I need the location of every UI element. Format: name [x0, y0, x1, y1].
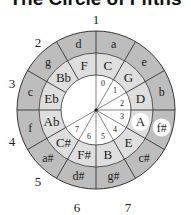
outer-number-label: 3 [9, 76, 16, 91]
minor-key-label: f [28, 121, 32, 135]
outer-number-label: 6 [74, 200, 81, 215]
major-key-label: G [124, 70, 133, 85]
major-key-label: B [104, 147, 113, 162]
outer-number-label: 4 [9, 134, 16, 149]
outer-number-label: 7 [125, 200, 132, 215]
accidental-count-label: 5 [101, 132, 105, 141]
outer-number-label: 2 [35, 35, 42, 50]
major-key-label: C [104, 58, 113, 73]
minor-key-label: b [159, 85, 165, 99]
minor-key-label: d# [72, 169, 84, 183]
outer-number-label: 5 [35, 174, 42, 189]
minor-key-label: g [45, 55, 51, 69]
major-key-label: A [136, 114, 146, 129]
major-key-label: C# [56, 135, 72, 150]
minor-key-label: e [141, 55, 146, 69]
major-key-label: F# [77, 147, 91, 162]
accidental-count-label: 1 [113, 86, 117, 95]
major-key-label: E [125, 135, 133, 150]
major-key-label: Ab [44, 114, 60, 129]
major-key-label: D [136, 91, 145, 106]
minor-key-label: a [111, 37, 117, 51]
accidental-count-label: 6 [87, 132, 91, 141]
accidental-count-label: 7 [75, 125, 79, 134]
accidental-count-label: 2 [120, 99, 124, 108]
minor-key-label: g# [108, 169, 120, 183]
major-key-label: F [80, 58, 87, 73]
minor-key-label: c [28, 85, 33, 99]
minor-key-label: c# [138, 151, 149, 165]
minor-key-label: f# [157, 121, 167, 135]
center-dot [94, 108, 97, 111]
accidental-count-label: 4 [113, 125, 117, 134]
minor-key-label: d [75, 37, 81, 51]
major-key-label: Eb [44, 91, 58, 106]
major-key-label: Bb [56, 70, 71, 85]
outer-number-label: 1 [93, 12, 100, 27]
circle-of-fifths-wheel: CGDAEBF#C#AbEbBbFaebf#c#g#d#a#fcgd012345… [0, 0, 191, 215]
accidental-count-label: 3 [120, 112, 124, 121]
accidental-count-label: 0 [101, 79, 105, 88]
minor-key-label: a# [42, 151, 53, 165]
